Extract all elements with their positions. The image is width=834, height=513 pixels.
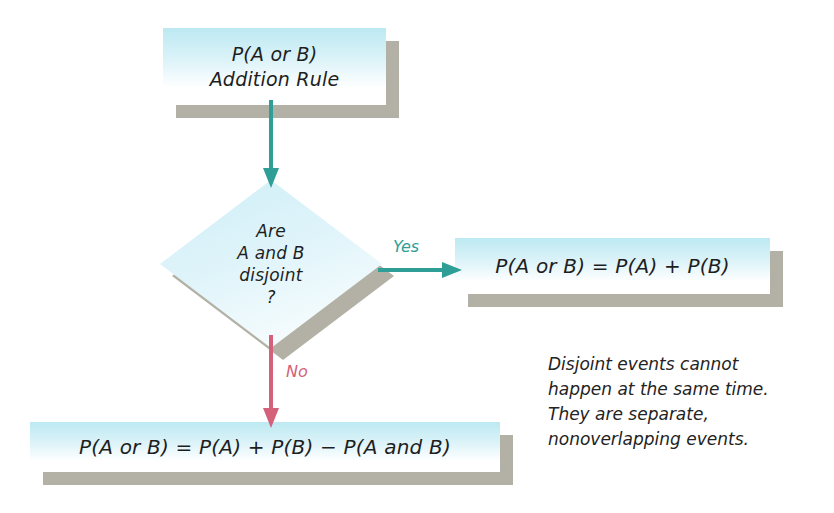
- decision-line-4: ?: [266, 286, 275, 308]
- annotation-line-2: happen at the same time.: [548, 377, 828, 402]
- arrow-decision-to-yes: [378, 255, 463, 285]
- yes-result-node: P(A or B) = P(A) + P(B): [455, 238, 770, 294]
- edge-label-yes: Yes: [393, 237, 419, 256]
- edge-label-no: No: [286, 362, 308, 381]
- annotation-text: Disjoint events cannot happen at the sam…: [548, 352, 828, 453]
- arrow-start-to-decision: [256, 100, 286, 190]
- decision-line-2: A and B: [237, 242, 304, 264]
- annotation-line-1: Disjoint events cannot: [548, 352, 828, 377]
- annotation-line-4: nonoverlapping events.: [548, 427, 828, 452]
- decision-node: Are A and B disjoint ?: [160, 180, 382, 348]
- arrow-decision-to-no: [256, 335, 286, 430]
- no-result-formula: P(A or B) = P(A) + P(B) − P(A and B): [79, 434, 451, 460]
- flowchart-canvas: P(A or B) Addition Rule Are A and B disj…: [0, 0, 834, 513]
- start-node-line-2: Addition Rule: [210, 67, 340, 92]
- decision-line-1: Are: [256, 220, 286, 242]
- yes-result-formula: P(A or B) = P(A) + P(B): [495, 253, 730, 279]
- start-node-line-1: P(A or B): [232, 42, 318, 67]
- decision-line-3: disjoint: [239, 264, 302, 286]
- annotation-line-3: They are separate,: [548, 402, 828, 427]
- decision-node-label: Are A and B disjoint ?: [160, 180, 382, 348]
- start-node: P(A or B) Addition Rule: [163, 28, 386, 105]
